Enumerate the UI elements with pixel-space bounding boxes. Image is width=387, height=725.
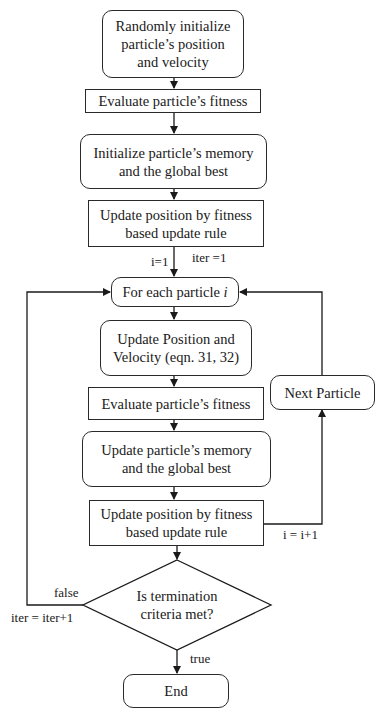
edge-label-i-init: i=1 — [151, 254, 168, 270]
evaluate-fitness-node-1: Evaluate particle’s fitness — [85, 89, 261, 113]
edge-label-iter-init: iter =1 — [192, 250, 226, 266]
node-text-line: particle’s position — [121, 35, 225, 53]
update-by-fitness-node-1: Update position by fitness based update … — [88, 200, 264, 247]
edge-label-iter-increment: iter = iter+1 — [11, 610, 73, 626]
evaluate-fitness-node-2: Evaluate particle’s fitness — [88, 387, 264, 420]
node-text-line: Update position by fitness — [100, 206, 252, 224]
node-text-line: and the global best — [122, 459, 231, 477]
node-text-line: Initialize particle’s memory — [93, 144, 253, 162]
for-each-particle-node: For each particle i — [111, 277, 239, 307]
node-text: End — [164, 682, 187, 700]
decision-text-line: Is termination — [117, 587, 237, 605]
update-by-fitness-node-2: Update position by fitness based update … — [89, 500, 264, 546]
update-position-velocity-node: Update Position and Velocity (eqn. 31, 3… — [100, 320, 252, 376]
edge-label-true: true — [190, 651, 210, 667]
decision-text-line: criteria met? — [117, 605, 237, 623]
node-text: Next Particle — [284, 384, 360, 402]
node-text-line: based update rule — [126, 523, 227, 541]
next-particle-node: Next Particle — [270, 375, 375, 410]
node-text-line: Randomly initialize — [116, 17, 231, 35]
node-text: For each particle — [122, 283, 219, 301]
node-text-line: Update Position and — [117, 330, 235, 348]
edge-label-false: false — [54, 585, 79, 601]
loop-variable: i — [224, 283, 228, 301]
init-memory-global-best-node: Initialize particle’s memory and the glo… — [80, 134, 267, 189]
end-node: End — [123, 674, 229, 708]
node-text-line: and velocity — [137, 53, 208, 71]
node-text-line: Velocity (eqn. 31, 32) — [113, 348, 239, 366]
node-text: Evaluate particle’s fitness — [99, 92, 248, 110]
node-text-line: Update particle’s memory — [101, 441, 252, 459]
edge-label-i-increment: i = i+1 — [283, 527, 318, 543]
node-text-line: and the global best — [119, 162, 228, 180]
update-memory-global-best-node: Update particle’s memory and the global … — [82, 431, 271, 487]
termination-decision-node: Is termination criteria met? — [117, 587, 237, 623]
node-text-line: Update position by fitness — [101, 505, 253, 523]
node-text: Evaluate particle’s fitness — [102, 395, 251, 413]
node-text-line: based update rule — [125, 224, 226, 242]
init-position-velocity-node: Randomly initialize particle’s position … — [102, 10, 244, 78]
